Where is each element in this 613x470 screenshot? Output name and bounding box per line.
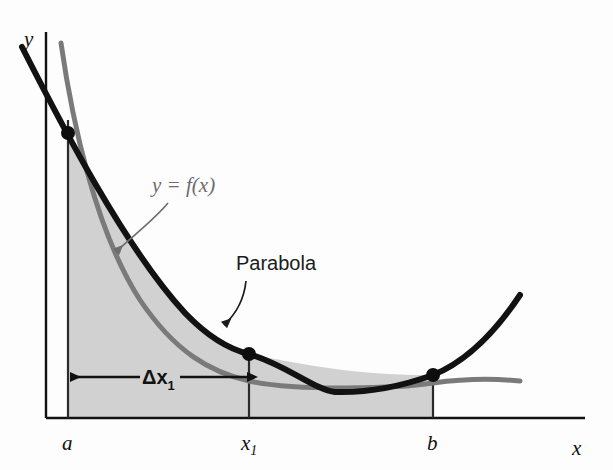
y-axis-label: y — [22, 27, 34, 51]
parabola-label-leader — [224, 281, 246, 325]
tick-label-b: b — [427, 431, 438, 455]
area-under-curve — [68, 133, 433, 418]
point-at-a — [61, 126, 75, 140]
math-figure-svg: Δx1 y = f(x) Parabola y x a x1 b — [0, 0, 613, 470]
tick-label-x1: x1 — [240, 431, 257, 458]
tick-label-a: a — [62, 431, 73, 455]
point-at-x1 — [242, 347, 256, 361]
parabola-label-group: Parabola — [224, 252, 317, 325]
point-at-b — [426, 368, 440, 382]
function-curve-label: y = f(x) — [150, 173, 215, 197]
figure-container: Δx1 y = f(x) Parabola y x a x1 b — [0, 0, 613, 470]
x-axis-label: x — [571, 436, 582, 460]
parabola-curve-label: Parabola — [236, 252, 317, 274]
